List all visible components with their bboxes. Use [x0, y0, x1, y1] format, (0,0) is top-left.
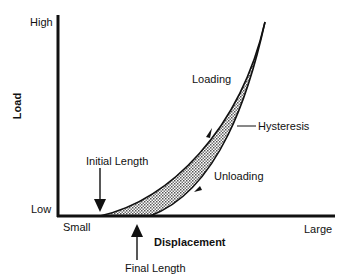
initial-length-label: Initial Length — [86, 155, 148, 167]
loading-direction-arrow — [206, 128, 212, 138]
hysteresis-label: Hysteresis — [258, 120, 309, 132]
loading-label: Loading — [192, 73, 231, 85]
hysteresis-area — [100, 22, 265, 216]
y-low-label: Low — [31, 203, 51, 215]
y-axis-title: Load — [11, 93, 23, 119]
x-large-label: Large — [304, 223, 332, 235]
unloading-direction-arrow — [194, 186, 202, 192]
unloading-label: Unloading — [214, 170, 264, 182]
y-high-label: High — [30, 16, 53, 28]
x-axis-title: Displacement — [154, 236, 226, 248]
final-length-arrow-head — [131, 224, 143, 237]
final-length-label: Final Length — [125, 262, 186, 274]
x-small-label: Small — [63, 221, 91, 233]
initial-length-arrow-head — [94, 199, 106, 212]
